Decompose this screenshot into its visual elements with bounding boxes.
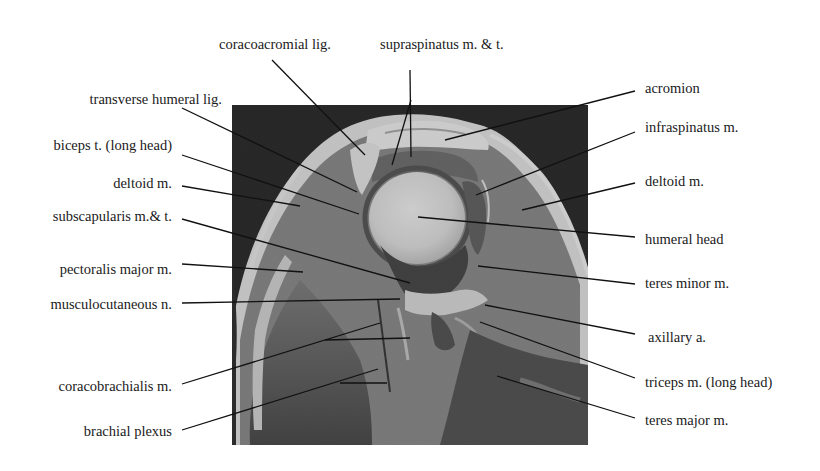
label-subscapularis: subscapularis m.& t. [0,208,172,224]
label-infraspinatus: infraspinatus m. [645,119,738,135]
label-teres-minor: teres minor m. [645,275,729,291]
label-musculocutaneous: musculocutaneous n. [0,296,172,312]
label-deltoid-left: deltoid m. [0,175,172,191]
label-triceps-long-head: triceps m. (long head) [645,374,772,390]
label-pectoralis-major: pectoralis major m. [0,261,172,277]
label-coracoacromial-lig: coracoacromial lig. [205,36,345,52]
annotated-shoulder-mri-figure: coracoacromial lig. supraspinatus m. & t… [0,0,820,471]
label-acromion: acromion [645,80,700,96]
label-brachial-plexus: brachial plexus [0,423,172,439]
label-axillary-a: axillary a. [648,329,706,345]
label-biceps-tendon: biceps t. (long head) [0,137,172,153]
label-humeral-head: humeral head [645,231,724,247]
label-deltoid-right: deltoid m. [645,173,704,189]
label-teres-major: teres major m. [645,412,728,428]
mri-image [232,105,588,445]
label-supraspinatus: supraspinatus m. & t. [380,36,504,52]
label-transverse-humeral-lig: transverse humeral lig. [0,91,222,107]
label-coracobrachialis: coracobrachialis m. [0,378,172,394]
